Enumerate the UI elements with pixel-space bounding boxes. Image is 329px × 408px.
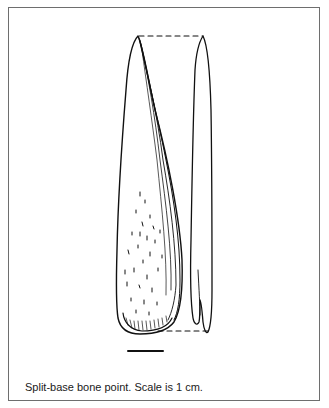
face-view: [116, 36, 182, 334]
surface-stipple: [125, 192, 162, 315]
side-view: [191, 36, 212, 333]
bone-point-illustration: [0, 0, 329, 408]
figure-caption: Split-base bone point. Scale is 1 cm.: [25, 381, 203, 393]
